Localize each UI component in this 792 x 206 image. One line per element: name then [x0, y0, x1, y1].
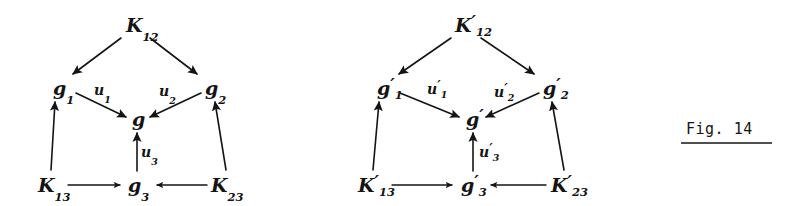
figure-caption-text: Fig. 14 — [686, 120, 753, 138]
node-g1: g1 — [53, 77, 74, 107]
edge-label-u3: u3 — [141, 144, 158, 167]
edge-label-u3-prime: u′3 — [479, 141, 500, 163]
edge-label-u2-prime: u′2 — [494, 81, 515, 103]
node-K23-prime: K′23 — [550, 171, 588, 199]
node-g3-prime: g′3 — [461, 171, 487, 199]
node-K13-prime: K′13 — [357, 171, 395, 199]
node-K23: K23 — [210, 174, 244, 204]
edge-label-u1-prime: u′1 — [427, 78, 447, 100]
edge-label-u2: u2 — [159, 83, 176, 106]
left-diagram-nodes: K12 g1 g2 g K13 g3 K23 — [37, 14, 244, 204]
edge-K13p-to-g1p — [373, 102, 379, 170]
right-diagram: K′12 g′1 g′2 g′ K′13 g′3 K′23 — [357, 11, 588, 199]
edge-K12p-to-g2p — [481, 38, 534, 74]
edge-K23-to-g2 — [215, 102, 226, 170]
node-g3: g3 — [128, 174, 149, 204]
edge-K12-to-g1 — [73, 38, 121, 74]
node-g1-prime: g′1 — [377, 74, 403, 102]
node-K13: K13 — [37, 174, 71, 204]
node-K12: K12 — [125, 14, 159, 44]
left-diagram: K12 g1 g2 g K13 g3 K23 — [37, 14, 244, 204]
edge-K23p-to-g2p — [552, 102, 564, 170]
node-K12-prime: K′12 — [454, 11, 492, 39]
edge-label-u1: u1 — [94, 82, 111, 105]
figure-svg-canvas: K12 g1 g2 g K13 g3 K23 — [0, 0, 792, 206]
figure-caption-block: Fig. 14 — [681, 120, 772, 143]
node-g: g — [132, 108, 145, 130]
node-g-prime: g′ — [466, 105, 484, 130]
edge-K13-to-g1 — [51, 102, 55, 170]
edge-K12p-to-g1p — [399, 38, 451, 74]
figure-14-container: K12 g1 g2 g K13 g3 K23 — [0, 0, 792, 206]
node-g2-prime: g′2 — [543, 74, 569, 102]
